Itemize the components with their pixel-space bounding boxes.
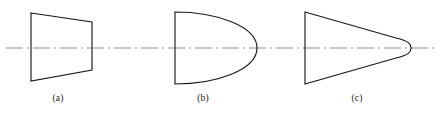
shape-b-caption: (b): [197, 94, 208, 104]
shape-c-caption: (c): [352, 94, 363, 104]
shape-a-trapezoid-outline: [31, 13, 92, 81]
shape-a-caption: (a): [53, 94, 64, 104]
figure-container: (a) (b) (c): [0, 0, 443, 114]
profile-shapes-diagram: [0, 0, 443, 114]
